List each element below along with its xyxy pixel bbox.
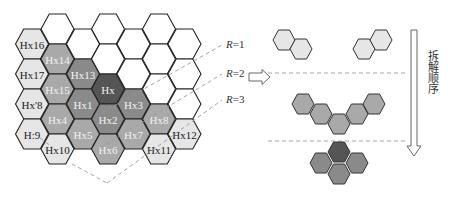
radius-labels: R=1R=2R=3 (225, 38, 245, 105)
hex-label: Hx13 (71, 69, 96, 81)
hex-label: Hx4 (48, 114, 67, 126)
hex-label: Hx'8 (22, 99, 43, 111)
disassembly-order-label: 拆解顺序 (425, 50, 439, 94)
hex-cell (292, 94, 314, 114)
hex-label: Hx6 (99, 144, 118, 156)
hex-cell (328, 114, 350, 134)
hex-cell (370, 30, 392, 50)
hex-label: Hx17 (20, 69, 45, 81)
hex-disassembly-diagram: Hx16Hx14Hx17Hx13Hx15HxHx'8Hx1Hx3Hx4Hx2Hx… (0, 0, 451, 200)
stage-ring-2 (292, 94, 385, 134)
hex-cell (310, 153, 332, 173)
hex-label: Hx15 (45, 84, 70, 96)
hex-label: Hx3 (124, 99, 143, 111)
down-arrow-icon (407, 30, 421, 156)
hex-grid: Hx16Hx14Hx17Hx13Hx15HxHx'8Hx1Hx3Hx4Hx2Hx… (16, 14, 202, 164)
hex-label: Hx5 (74, 129, 93, 141)
hex-label: Hx (101, 84, 115, 96)
hex-cell (328, 142, 350, 162)
hex-label: Hx1 (74, 99, 93, 111)
hex-label: H:9 (24, 129, 41, 141)
hex-cell (363, 94, 385, 114)
hex-label: Hx10 (45, 144, 70, 156)
hex-label: Hx16 (20, 39, 45, 51)
right-arrow-icon (249, 70, 270, 85)
radius-label-2: R=2 (225, 67, 244, 79)
hex-label: Hx7 (124, 129, 143, 141)
hex-label: Hx2 (99, 114, 118, 126)
stage-ring-1 (310, 142, 368, 184)
hex-cell (346, 153, 368, 173)
hex-cell (310, 104, 332, 124)
radius-label-1: R=1 (225, 38, 244, 50)
stage-ring-3 (273, 30, 392, 59)
disassembly-stages (268, 30, 408, 184)
hex-cell (290, 39, 312, 59)
hex-label: Hx8 (150, 114, 169, 126)
radius-label-3: R=3 (225, 93, 245, 105)
hex-label: Hx14 (45, 54, 70, 66)
hex-label: Hx12 (172, 129, 196, 141)
hex-cell (328, 164, 350, 184)
